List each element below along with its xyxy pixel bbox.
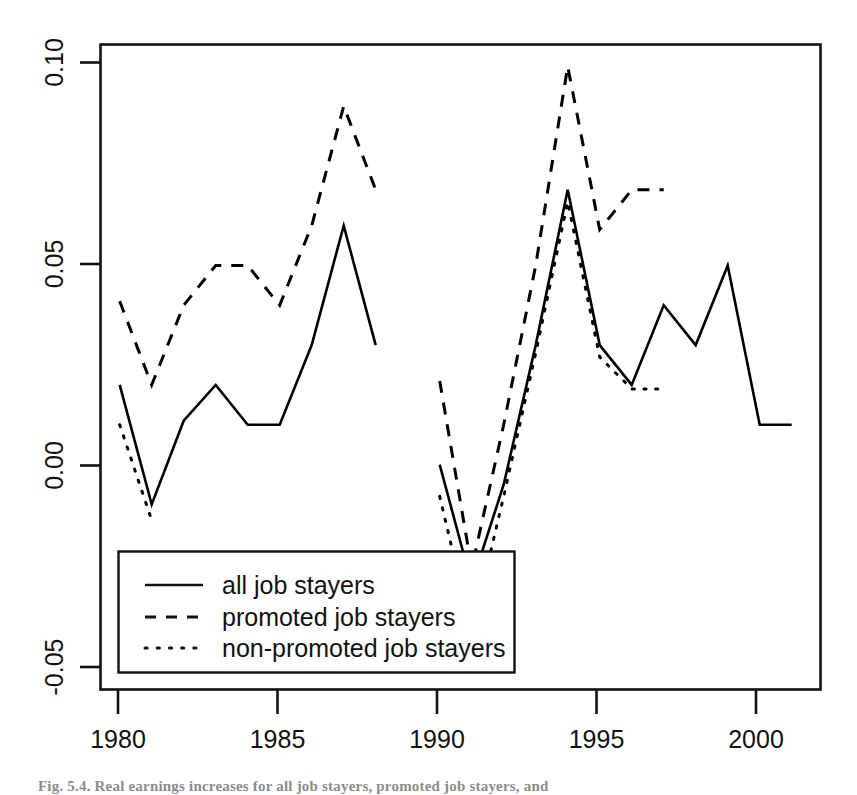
y-tick-label: 0.00 <box>40 441 68 490</box>
figure-caption: Fig. 5.4. Real earnings increases for al… <box>38 778 838 794</box>
x-tick-label: 2000 <box>728 725 784 753</box>
y-tick-label: -0.05 <box>40 639 68 696</box>
legend-label: all job stayers <box>222 571 375 599</box>
data-series-layer <box>120 66 792 631</box>
legend-label: non-promoted job stayers <box>222 634 505 662</box>
x-tick-label: 1980 <box>90 725 146 753</box>
x-axis-tick-labels: 1980 1985 1990 1995 2000 <box>90 725 784 753</box>
x-axis-ticks <box>118 690 756 714</box>
series-line-dashed <box>440 66 664 568</box>
legend-label: promoted job stayers <box>222 603 455 631</box>
x-tick-label: 1995 <box>569 725 625 753</box>
line-chart: 0.10 0.05 0.00 -0.05 1980 1985 1990 1995… <box>0 0 857 795</box>
y-tick-label: 0.10 <box>40 38 68 87</box>
legend: all job stayers promoted job stayers non… <box>119 552 515 673</box>
series-line-dotted <box>120 425 152 521</box>
series-line-solid <box>440 190 792 584</box>
figure-container: 0.10 0.05 0.00 -0.05 1980 1985 1990 1995… <box>0 0 857 795</box>
x-tick-label: 1990 <box>409 725 465 753</box>
y-axis-ticks <box>80 63 100 668</box>
y-axis-tick-labels: 0.10 0.05 0.00 -0.05 <box>40 38 68 695</box>
y-tick-label: 0.05 <box>40 240 68 289</box>
x-tick-label: 1985 <box>250 725 306 753</box>
